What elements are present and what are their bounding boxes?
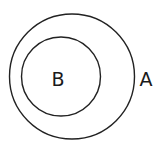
set-b-label: B [51,68,64,90]
set-diagram: B A [0,0,159,151]
set-a-label: A [140,68,153,90]
set-a-circle [10,14,135,139]
